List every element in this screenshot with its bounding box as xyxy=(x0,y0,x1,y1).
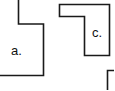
shape-c-label: c. xyxy=(92,25,102,40)
shape-a-label: a. xyxy=(11,43,22,58)
diagram-canvas: a. c. xyxy=(0,0,114,90)
shape-a-outline xyxy=(0,0,44,76)
partial-shape-outline xyxy=(108,71,115,91)
